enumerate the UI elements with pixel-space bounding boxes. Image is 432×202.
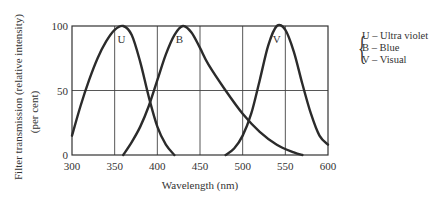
y-axis-label-line1: Filter transmission (relative intensity) xyxy=(12,14,25,180)
curve-labels: UBV xyxy=(118,33,281,45)
legend: { U – Ultra violet B – Blue V – Visual xyxy=(358,30,428,66)
x-tick-label: 500 xyxy=(234,160,251,172)
legend-brace: { xyxy=(358,30,366,66)
curve-label-v: V xyxy=(273,33,281,45)
x-tick-label: 600 xyxy=(320,160,337,172)
x-tick-label: 350 xyxy=(106,160,123,172)
y-tick-label: 100 xyxy=(52,20,69,32)
curve-label-b: B xyxy=(176,33,183,45)
legend-item-b: B – Blue xyxy=(358,42,428,54)
x-tick-label: 300 xyxy=(64,160,81,172)
axis-ticks: 300350400450500550600050100 xyxy=(52,20,337,172)
x-tick-label: 550 xyxy=(277,160,294,172)
y-tick-label: 0 xyxy=(63,149,69,161)
y-tick-label: 50 xyxy=(57,85,69,97)
y-axis-label-line2: (per cent) xyxy=(28,90,41,133)
x-tick-label: 450 xyxy=(192,160,209,172)
curve-label-u: U xyxy=(118,33,126,45)
legend-item-u: U – Ultra violet xyxy=(358,30,428,42)
legend-item-v: V – Visual xyxy=(358,54,428,66)
x-tick-label: 400 xyxy=(149,160,166,172)
x-axis-label: Wavelength (nm) xyxy=(162,179,239,192)
